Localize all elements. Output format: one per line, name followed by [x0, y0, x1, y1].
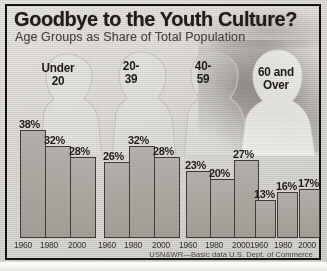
- bar-under20-2000: 28%: [70, 157, 96, 238]
- year-tick: 2000: [295, 240, 320, 250]
- group-label-line1: Under: [30, 62, 86, 75]
- bar-under20-1960: 38%: [20, 130, 46, 238]
- group-label-20-39: 20- 39: [109, 60, 152, 85]
- bar-set: 26% 32% 28%: [104, 110, 180, 238]
- year-axis-under-20: 1960 1980 2000: [14, 240, 92, 252]
- bar-4059-1980: 20%: [210, 179, 235, 238]
- year-tick: 1960: [95, 240, 120, 250]
- bar-value: 32%: [128, 135, 149, 147]
- year-tick: 1960: [247, 240, 272, 250]
- bar-4059-1960: 23%: [186, 171, 211, 238]
- year-tick: 1960: [11, 240, 36, 250]
- bar-value: 13%: [254, 189, 275, 201]
- bar-60plus-1980: 16%: [277, 192, 298, 238]
- chart-subtitle: Age Groups as Share of Total Population: [15, 30, 245, 44]
- bar-value: 26%: [103, 151, 124, 163]
- bar-value: 16%: [276, 181, 297, 193]
- bar-value: 28%: [69, 146, 90, 158]
- bar-2039-1980: 32%: [129, 146, 155, 238]
- bar-set: 38% 32% 28%: [20, 110, 96, 238]
- bar-value: 17%: [298, 178, 319, 190]
- year-tick: 1980: [121, 240, 146, 250]
- group-label-line2: Over: [247, 79, 305, 92]
- year-tick: 1980: [202, 240, 227, 250]
- group-label-40-59: 40- 59: [181, 60, 224, 85]
- group-label-line2: 20: [30, 75, 86, 88]
- year-tick: 1980: [271, 240, 296, 250]
- group-label-line2: 59: [181, 73, 224, 86]
- bar-set: 13% 16% 17%: [255, 110, 320, 238]
- bar-value: 28%: [153, 146, 174, 158]
- group-label-line1: 60 and: [247, 66, 305, 79]
- chart-title: Goodbye to the Youth Culture?: [14, 8, 295, 29]
- bar-under20-1980: 32%: [45, 146, 71, 238]
- year-tick: 2000: [65, 240, 90, 250]
- bar-60plus-2000: 17%: [299, 189, 320, 238]
- bar-60plus-1960: 13%: [255, 200, 276, 238]
- page-bottom-edge: [0, 262, 327, 271]
- group-label-line1: 40-: [181, 60, 224, 73]
- infographic-clipping: Goodbye to the Youth Culture? Age Groups…: [0, 0, 327, 271]
- bar-value: 23%: [185, 160, 206, 172]
- group-label-line2: 39: [109, 73, 152, 86]
- bar-2039-2000: 28%: [154, 157, 180, 238]
- group-label-line1: 20-: [109, 60, 152, 73]
- bar-value: 20%: [209, 168, 230, 180]
- group-label-60-and-over: 60 and Over: [247, 66, 305, 91]
- group-label-under-20: Under 20: [30, 62, 86, 87]
- bar-plot: 38% 32% 28% 26% 32% 28%: [6, 110, 320, 238]
- bar-value: 27%: [233, 149, 254, 161]
- year-tick: 1980: [37, 240, 62, 250]
- bar-value: 38%: [19, 119, 40, 131]
- year-tick: 1960: [176, 240, 201, 250]
- source-credit: USN&WR—Basic data U.S. Dept. of Commerce: [149, 250, 313, 259]
- year-tick: 2000: [149, 240, 174, 250]
- bar-value: 32%: [44, 135, 65, 147]
- bar-set: 23% 20% 27%: [186, 110, 259, 238]
- bar-2039-1960: 26%: [104, 162, 130, 238]
